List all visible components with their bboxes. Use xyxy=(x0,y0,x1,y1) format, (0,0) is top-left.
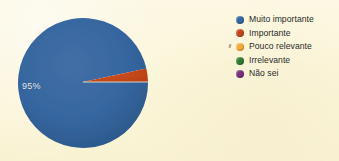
legend-item-muito-importante[interactable]: Muito importante xyxy=(236,13,339,27)
legend-item-irrelevante[interactable]: Irrelevante xyxy=(236,54,339,68)
legend-item-importante[interactable]: Importante xyxy=(236,27,339,41)
legend-item-label: Muito importante xyxy=(249,13,314,27)
legend-swatch-circle-icon xyxy=(236,70,244,78)
legend-item-label: Importante xyxy=(249,27,291,41)
legend-swatch-circle-icon xyxy=(236,57,244,65)
chart-page: 95% Muito importante Importante Pouco re… xyxy=(0,0,339,161)
legend-item-label: Não sei xyxy=(249,67,279,81)
legend-swatch-circle-icon xyxy=(236,29,244,37)
pie-slice-value-label: 95% xyxy=(22,81,41,91)
pie-chart-area: 95% xyxy=(0,0,230,161)
legend-item-nao-sei[interactable]: Não sei xyxy=(236,67,339,81)
legend-swatch-circle-icon xyxy=(236,16,244,24)
chart-legend: Muito importante Importante Pouco releva… xyxy=(236,13,339,81)
legend-swatch-circle-icon xyxy=(236,43,244,51)
legend-item-label: Pouco relevante xyxy=(249,40,312,54)
legend-item-pouco-relevante[interactable]: Pouco relevante xyxy=(236,40,339,54)
legend-item-label: Irrelevante xyxy=(249,54,290,68)
stray-scan-mark xyxy=(228,44,231,48)
